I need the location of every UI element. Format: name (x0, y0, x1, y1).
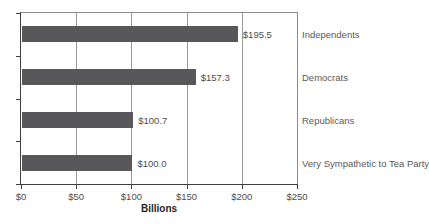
x-tick-label: $100 (121, 191, 142, 202)
category-label: Independents (302, 29, 360, 40)
x-axis-tick (21, 185, 22, 189)
y-axis-tick (16, 99, 20, 100)
bar (22, 69, 196, 85)
bar-value-label: $100.7 (138, 114, 167, 125)
x-axis-line (20, 184, 298, 185)
x-tick-label: $250 (286, 191, 307, 202)
x-axis-tick (131, 185, 132, 189)
x-axis-tick (242, 185, 243, 189)
category-label: Republicans (302, 114, 354, 125)
x-tick-label: $150 (176, 191, 197, 202)
bar-value-label: $100.0 (137, 157, 166, 168)
plot-border-right (297, 12, 298, 185)
y-axis-tick (16, 141, 20, 142)
bar-value-label: $157.3 (201, 72, 230, 83)
x-tick-label: $200 (231, 191, 252, 202)
plot-border-top (20, 12, 298, 13)
y-axis-tick (16, 184, 20, 185)
x-tick-label: $50 (68, 191, 84, 202)
x-axis-tick (187, 185, 188, 189)
bar (22, 112, 133, 128)
bar-value-label: $195.5 (243, 29, 272, 40)
y-axis-tick (16, 56, 20, 57)
category-label: Democrats (302, 72, 348, 83)
x-axis-title: Billions (141, 203, 177, 214)
bar (22, 155, 132, 171)
y-axis-tick (16, 13, 20, 14)
y-axis-line (20, 12, 21, 185)
bar (22, 26, 238, 42)
bar-chart: $0$50$100$150$200$250$195.5Independents$… (0, 0, 429, 224)
category-label: Very Sympathetic to Tea Party (302, 157, 429, 168)
plot-area: $0$50$100$150$200$250$195.5Independents$… (0, 0, 429, 224)
x-axis-tick (76, 185, 77, 189)
x-tick-label: $0 (16, 191, 27, 202)
x-axis-tick (297, 185, 298, 189)
